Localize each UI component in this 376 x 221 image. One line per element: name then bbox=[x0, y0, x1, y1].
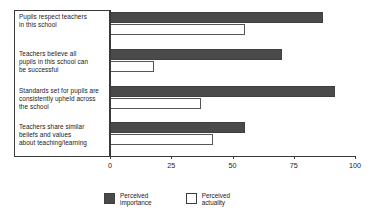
category-label-2-line-1: consistently upheld across bbox=[19, 95, 109, 103]
category-label-3-line-2: about teaching/learning bbox=[19, 139, 109, 147]
x-tick-25 bbox=[171, 156, 172, 159]
bar-importance-3 bbox=[110, 122, 245, 133]
category-label-2: Standards set for pupils areconsistently… bbox=[19, 87, 109, 111]
category-label-1: Teachers believe allpupils in this schoo… bbox=[19, 50, 109, 74]
x-tick-label-100: 100 bbox=[349, 161, 361, 170]
legend-item-actuality: Perceived actuality bbox=[186, 192, 230, 207]
category-label-1-line-1: pupils in this school can bbox=[19, 58, 109, 66]
x-axis-line: 0255075100 bbox=[110, 156, 355, 157]
legend-label-actuality: Perceived actuality bbox=[202, 192, 230, 207]
bar-chart: Pupils respect teachersin this schoolTea… bbox=[0, 0, 376, 221]
category-label-1-line-0: Teachers believe all bbox=[19, 50, 109, 58]
x-tick-0 bbox=[110, 156, 111, 159]
category-label-panel: Pupils respect teachersin this schoolTea… bbox=[14, 10, 110, 157]
bar-importance-0 bbox=[110, 12, 323, 23]
x-tick-75 bbox=[294, 156, 295, 159]
legend-label-importance: Perceived importance bbox=[120, 192, 152, 207]
bar-actuality-0 bbox=[110, 24, 245, 35]
x-tick-label-0: 0 bbox=[108, 161, 112, 170]
category-label-0: Pupils respect teachersin this school bbox=[19, 13, 109, 29]
category-label-3: Teachers share similarbeliefs and values… bbox=[19, 123, 109, 147]
bar-actuality-1 bbox=[110, 61, 154, 72]
plot-area bbox=[110, 10, 355, 157]
category-label-2-line-0: Standards set for pupils are bbox=[19, 87, 109, 95]
category-label-1-line-2: be successful bbox=[19, 66, 109, 74]
category-label-2-line-2: the school bbox=[19, 103, 109, 111]
bar-actuality-3 bbox=[110, 134, 213, 145]
x-tick-label-25: 25 bbox=[167, 161, 175, 170]
category-label-3-line-1: beliefs and values bbox=[19, 131, 109, 139]
category-label-0-line-1: in this school bbox=[19, 21, 109, 29]
legend-item-importance: Perceived importance bbox=[104, 192, 152, 207]
legend-swatch-actuality-icon bbox=[186, 193, 197, 204]
bar-importance-1 bbox=[110, 49, 282, 60]
value-axis-baseline bbox=[110, 10, 111, 157]
x-tick-100 bbox=[355, 156, 356, 159]
category-label-0-line-0: Pupils respect teachers bbox=[19, 13, 109, 21]
category-label-3-line-0: Teachers share similar bbox=[19, 123, 109, 131]
bar-actuality-2 bbox=[110, 98, 201, 109]
chart-legend: Perceived importance Perceived actuality bbox=[104, 192, 230, 207]
x-tick-label-50: 50 bbox=[229, 161, 237, 170]
legend-swatch-importance-icon bbox=[104, 193, 115, 204]
bar-importance-2 bbox=[110, 86, 335, 97]
x-tick-label-75: 75 bbox=[290, 161, 298, 170]
x-tick-50 bbox=[233, 156, 234, 159]
